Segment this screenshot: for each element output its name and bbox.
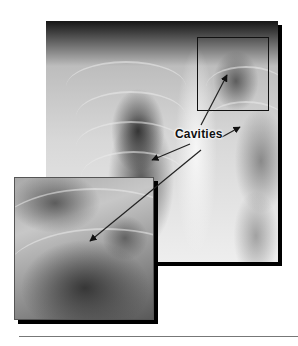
cavities-label: Cavities: [175, 127, 223, 141]
magnified-inset-image: [14, 177, 154, 320]
divider-line: [19, 336, 298, 337]
region-of-interest-box: [197, 37, 269, 111]
rib-shadow: [14, 228, 154, 320]
